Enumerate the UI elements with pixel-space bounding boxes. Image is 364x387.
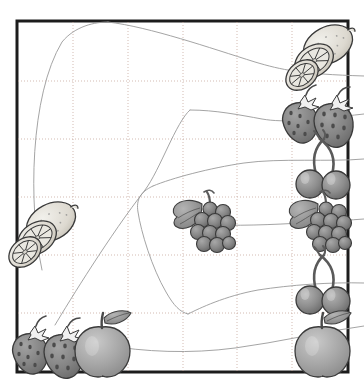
worksheet-canvas [0, 0, 364, 387]
puzzle-scene [0, 0, 364, 387]
